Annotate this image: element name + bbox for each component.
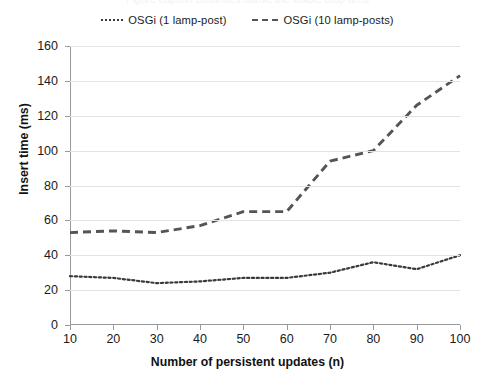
gridline-y-160	[70, 46, 460, 47]
x-tick-90	[417, 325, 418, 330]
x-tick-30	[157, 325, 158, 330]
x-tick-40	[200, 325, 201, 330]
series-line-1	[70, 255, 460, 283]
legend-label-osgi-1-lamp-post: OSGi (1 lamp-post)	[128, 14, 226, 26]
x-tick-80	[373, 325, 374, 330]
y-tick-label-0: 0	[51, 318, 58, 332]
x-tick-label-50: 50	[236, 332, 250, 346]
legend-key-dashed-icon	[252, 19, 278, 21]
x-tick-60	[287, 325, 288, 330]
x-tick-label-40: 40	[193, 332, 207, 346]
x-tick-10	[70, 325, 71, 330]
y-tick-label-160: 160	[37, 39, 58, 53]
y-tick-100	[65, 151, 70, 152]
x-tick-label-20: 20	[106, 332, 120, 346]
series-line-2	[70, 76, 460, 233]
legend-item-osgi-10-lamp-posts: OSGi (10 lamp-posts)	[252, 14, 393, 26]
y-tick-label-100: 100	[37, 144, 58, 158]
y-tick-40	[65, 255, 70, 256]
legend-label-osgi-10-lamp-posts: OSGi (10 lamp-posts)	[283, 14, 393, 26]
gridline-y-100	[70, 151, 460, 152]
x-tick-100	[460, 325, 461, 330]
x-axis-tick-labels: 102030405060708090100	[70, 332, 460, 352]
x-tick-50	[243, 325, 244, 330]
legend-item-osgi-1-lamp-post: OSGi (1 lamp-post)	[101, 14, 226, 26]
x-tick-label-80: 80	[366, 332, 380, 346]
y-axis-tick-labels: 020406080100120140160	[0, 46, 66, 325]
y-tick-20	[65, 290, 70, 291]
y-tick-80	[65, 186, 70, 187]
x-tick-label-70: 70	[323, 332, 337, 346]
x-tick-label-100: 100	[450, 332, 471, 346]
x-tick-label-60: 60	[280, 332, 294, 346]
gridline-y-40	[70, 255, 460, 256]
y-tick-label-120: 120	[37, 109, 58, 123]
line-chart: Figure caption continues above the visib…	[0, 0, 495, 383]
chart-legend: OSGi (1 lamp-post) OSGi (10 lamp-posts)	[0, 14, 495, 26]
gridline-y-140	[70, 81, 460, 82]
y-tick-label-20: 20	[44, 283, 58, 297]
gridline-y-80	[70, 186, 460, 187]
x-tick-20	[113, 325, 114, 330]
y-tick-60	[65, 220, 70, 221]
y-tick-120	[65, 116, 70, 117]
x-tick-label-10: 10	[63, 332, 77, 346]
y-tick-label-80: 80	[44, 179, 58, 193]
cut-off-caption-text: Figure caption continues above the visib…	[0, 0, 495, 5]
x-tick-label-30: 30	[150, 332, 164, 346]
y-tick-140	[65, 81, 70, 82]
y-axis-title: Insert time (ms)	[17, 59, 31, 239]
y-tick-label-140: 140	[37, 74, 58, 88]
cut-off-caption-strip: Figure caption continues above the visib…	[0, 0, 495, 8]
y-tick-label-60: 60	[44, 213, 58, 227]
y-tick-label-40: 40	[44, 248, 58, 262]
x-tick-label-90: 90	[410, 332, 424, 346]
gridline-y-60	[70, 220, 460, 221]
x-axis-title: Number of persistent updates (n)	[0, 355, 495, 369]
gridline-y-20	[70, 290, 460, 291]
y-tick-160	[65, 46, 70, 47]
legend-key-dotted-icon	[101, 19, 123, 21]
gridline-y-120	[70, 116, 460, 117]
x-tick-70	[330, 325, 331, 330]
plot-area	[70, 46, 460, 325]
